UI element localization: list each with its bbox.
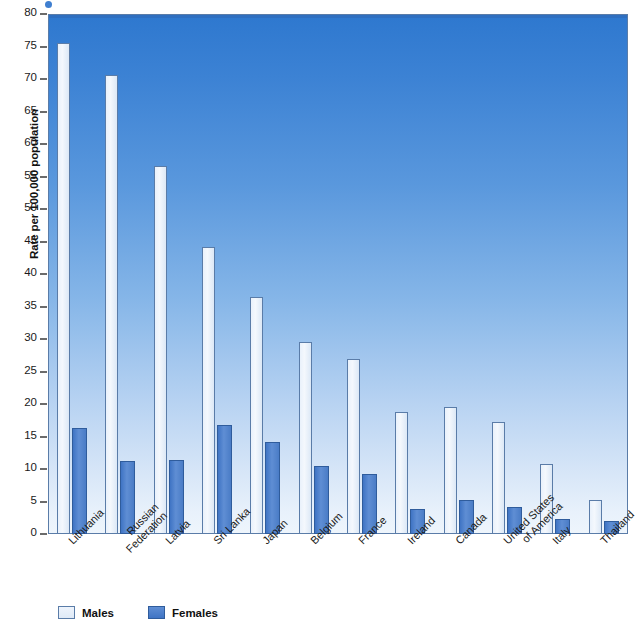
y-axis-tick-mark [40, 403, 47, 405]
y-axis-tick-mark [40, 46, 47, 48]
y-axis-tick-mark [40, 468, 47, 470]
y-axis-tick-mark [40, 241, 47, 243]
y-axis-tick-label: 70 [24, 71, 37, 83]
y-axis-tick-label: 30 [24, 331, 37, 343]
y-axis-tick-label: 25 [24, 364, 37, 376]
y-axis-tick-label: 0 [31, 526, 37, 538]
y-axis-tick-mark [40, 143, 47, 145]
y-axis-tick-label: 40 [24, 266, 37, 278]
y-axis-tick-mark [40, 176, 47, 178]
y-axis-tick-label: 55 [24, 169, 37, 181]
y-axis-tick-label: 15 [24, 429, 37, 441]
y-axis-tick-label: 45 [24, 234, 37, 246]
y-axis-tick-mark [40, 338, 47, 340]
legend-label-males: Males [82, 607, 114, 619]
y-axis-tick-mark [40, 273, 47, 275]
y-axis-tick-label: 80 [24, 6, 37, 18]
legend-item-males[interactable]: Males [58, 606, 114, 619]
y-axis-tick-mark [40, 371, 47, 373]
y-axis-tick-mark [40, 111, 47, 113]
legend-item-females[interactable]: Females [148, 606, 218, 619]
y-axis-tick-label: 75 [24, 39, 37, 51]
y-axis-tick-mark [40, 533, 47, 535]
y-axis-tick-label: 35 [24, 299, 37, 311]
y-axis-tick-mark [40, 501, 47, 503]
legend-swatch-males-icon [58, 606, 75, 619]
y-axis-tick-label: 20 [24, 396, 37, 408]
chart-figure: Rate per 100,000 population LithuaniaRus… [0, 0, 639, 631]
y-axis-tick-label: 60 [24, 136, 37, 148]
y-axis-tick-label: 50 [24, 201, 37, 213]
y-axis-tick-label: 65 [24, 104, 37, 116]
legend-label-females: Females [172, 607, 218, 619]
y-axis-tick-label: 10 [24, 461, 37, 473]
y-axis-tick-mark [40, 78, 47, 80]
y-axis-tick-mark [40, 13, 47, 15]
y-axis-tick-label: 5 [31, 494, 37, 506]
chart-legend: Males Females [58, 606, 218, 619]
y-axis-tick-mark [40, 306, 47, 308]
y-axis-tick-mark [40, 436, 47, 438]
y-axis-tick-mark [40, 208, 47, 210]
title-remnant-bullet-icon [45, 1, 52, 8]
legend-swatch-females-icon [148, 606, 165, 619]
x-axis-category-labels: LithuaniaRussian FederationLatviaSri Lan… [48, 534, 628, 600]
plot-area [48, 14, 628, 534]
